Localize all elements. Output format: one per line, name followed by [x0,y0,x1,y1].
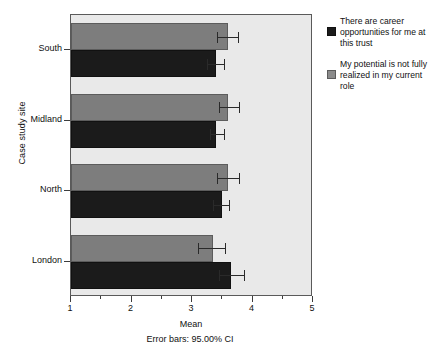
x-tick-label: 5 [300,303,324,313]
black-swatch [327,27,336,36]
error-bar [210,129,225,140]
x-tick-mark [70,296,71,302]
error-bar-line [198,248,226,249]
error-bar [207,59,225,70]
legend: There are career opportunities for me at… [327,16,431,101]
y-tick-mark [64,49,70,50]
legend-label: My potential is not fully realized in my… [340,59,431,93]
x-minor-tick-mark [161,296,162,299]
error-bar-line [207,64,225,65]
plot-area [70,14,312,296]
x-tick-mark [252,296,253,302]
error-bar-cap-high [244,270,245,281]
error-bar-cap-high [224,59,225,70]
bar [71,164,228,191]
x-tick-label: 3 [179,303,203,313]
error-bar-cap-high [229,200,230,211]
error-bar [217,173,239,184]
y-tick-label: London [32,255,62,265]
x-minor-tick-mark [221,296,222,299]
legend-entry: There are career opportunities for me at… [327,16,431,50]
error-bar [217,32,239,43]
x-tick-mark [191,296,192,302]
bar [71,262,231,289]
y-axis-title: Case study site [17,73,27,193]
bar [71,121,216,148]
x-minor-tick-mark [282,296,283,299]
bar [71,23,228,50]
error-bar [198,243,226,254]
error-bar-cap-high [239,102,240,113]
bar-chart: Case study site SouthMidlandNorthLondon … [0,0,433,350]
error-bar-line [219,107,241,108]
bar [71,235,213,262]
error-bar-caption: Error bars: 95.00% CI [40,334,340,344]
error-bar-line [210,134,225,135]
y-tick-mark [64,120,70,121]
error-bar [213,200,229,211]
x-tick-label: 1 [58,303,82,313]
error-bar [219,102,241,113]
x-tick-mark [131,296,132,302]
x-minor-tick-mark [100,296,101,299]
error-bar-cap-high [239,173,240,184]
x-tick-label: 4 [240,303,264,313]
x-tick-mark [312,296,313,302]
error-bar-cap-high [238,32,239,43]
error-bar-line [219,275,244,276]
error-bar-cap-high [224,129,225,140]
y-tick-label: North [40,184,62,194]
error-bar-line [217,178,239,179]
error-bar-cap-high [225,243,226,254]
bar [71,191,222,218]
y-tick-label: South [38,43,62,53]
bar [71,50,216,77]
x-tick-label: 2 [119,303,143,313]
legend-entry: My potential is not fully realized in my… [327,59,431,93]
bar [71,94,228,121]
error-bar-line [217,37,239,38]
gray-swatch [327,70,336,79]
legend-label: There are career opportunities for me at… [340,16,431,50]
error-bar [219,270,244,281]
y-tick-mark [64,261,70,262]
error-bar-line [213,205,229,206]
x-axis-title: Mean [70,319,312,329]
y-tick-label: Midland [30,114,62,124]
y-tick-mark [64,190,70,191]
